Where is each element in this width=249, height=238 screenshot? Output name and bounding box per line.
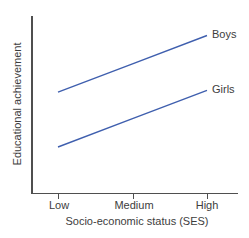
series-label-girls: Girls — [212, 83, 235, 96]
ses-achievement-figure: Educational achievement Low Medium High … — [0, 0, 249, 238]
x-tick-label-low: Low — [24, 199, 94, 212]
series-label-boys: Boys — [212, 28, 236, 41]
x-axis-label: Socio-economic status (SES) — [32, 215, 242, 228]
x-tick-label-medium: Medium — [99, 199, 169, 212]
x-tick-label-high: High — [172, 199, 242, 212]
